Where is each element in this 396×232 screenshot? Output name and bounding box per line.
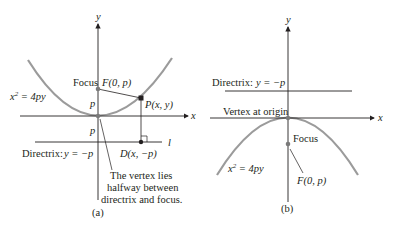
point-d bbox=[139, 140, 143, 144]
directrix-eq-a: y = −p bbox=[63, 148, 93, 159]
figure-a: y x l Directrix: y = −p Focus F(0, p) P(… bbox=[9, 11, 196, 219]
note-line-3: directrix and focus. bbox=[101, 194, 182, 205]
note-line-1: The vertex lies bbox=[110, 170, 172, 181]
parabola-figure: y x l Directrix: y = −p Focus F(0, p) P(… bbox=[0, 0, 396, 232]
figure-b: y x Directrix: y = −p Vertex at origin F… bbox=[210, 14, 383, 215]
x-axis-label-b: x bbox=[377, 112, 383, 123]
directrix-eq-b: y = −p bbox=[255, 77, 285, 88]
y-axis-label-b: y bbox=[285, 14, 291, 25]
distance-p-upper: p bbox=[89, 98, 95, 109]
note-line-2: halfway between bbox=[107, 182, 179, 193]
distance-p-lower: p bbox=[89, 125, 95, 136]
vertex-point-a bbox=[96, 114, 100, 118]
caption-b: (b) bbox=[281, 203, 294, 215]
focus-word-a: Focus bbox=[73, 77, 98, 88]
focus-word-b: Focus bbox=[293, 133, 318, 144]
focus-point-label-a: F(0, p) bbox=[101, 77, 132, 89]
caption-a: (a) bbox=[92, 207, 104, 219]
focus-point-b bbox=[286, 142, 291, 147]
directrix-label-b: Directrix: bbox=[212, 77, 253, 88]
note-pointer-line bbox=[100, 119, 112, 170]
equation-a: x2 = 4py bbox=[9, 90, 46, 102]
point-d-label: D(x, −p) bbox=[119, 148, 157, 160]
x-axis-label-a: x bbox=[190, 110, 196, 121]
vertex-label-b: Vertex at origin bbox=[223, 106, 289, 117]
equation-b: x2 = 4py bbox=[227, 162, 264, 174]
y-axis-label-a: y bbox=[95, 11, 101, 22]
point-p bbox=[139, 96, 144, 101]
directrix-label-a: Directrix: bbox=[22, 148, 63, 159]
focus-pointer-line-b bbox=[290, 149, 303, 173]
focus-to-p-line bbox=[98, 89, 141, 98]
focus-point-label-b: F(0, p) bbox=[296, 175, 327, 187]
directrix-name-l: l bbox=[168, 137, 171, 148]
point-p-label: P(x, y) bbox=[144, 99, 173, 111]
